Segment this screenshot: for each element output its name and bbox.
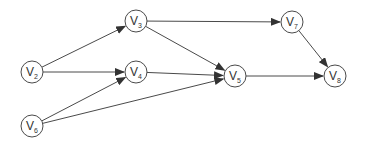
node-label-v3: V3 xyxy=(125,10,147,32)
node-subscript: 6 xyxy=(34,127,38,134)
graph-canvas: V2V3V4V6V5V7V8 xyxy=(0,0,369,143)
node-subscript: 7 xyxy=(294,23,298,30)
node-subscript: 4 xyxy=(138,73,142,80)
node-letter: V xyxy=(286,15,294,29)
edge-v7-v8 xyxy=(299,31,328,67)
edge-v3-v7 xyxy=(147,21,280,22)
node-letter: V xyxy=(130,14,138,28)
node-subscript: 2 xyxy=(34,73,38,80)
edge-v6-v5 xyxy=(43,79,224,123)
node-label-v4: V4 xyxy=(125,61,147,83)
graph-edges-layer xyxy=(0,0,369,143)
edge-v6-v4 xyxy=(42,78,126,121)
node-letter: V xyxy=(26,65,34,79)
node-label-v6: V6 xyxy=(21,115,43,137)
node-letter: V xyxy=(229,69,237,83)
node-subscript: 8 xyxy=(337,77,341,84)
node-letter: V xyxy=(130,65,138,79)
edge-v2-v3 xyxy=(42,26,125,67)
node-letter: V xyxy=(26,119,34,133)
edge-v3-v5 xyxy=(146,26,225,70)
node-label-v8: V8 xyxy=(324,65,346,87)
node-label-v2: V2 xyxy=(21,61,43,83)
node-subscript: 3 xyxy=(138,22,142,29)
node-label-v5: V5 xyxy=(224,65,246,87)
node-subscript: 5 xyxy=(237,77,241,84)
node-letter: V xyxy=(329,69,337,83)
node-label-v7: V7 xyxy=(281,11,303,33)
edge-v4-v5 xyxy=(147,72,223,75)
